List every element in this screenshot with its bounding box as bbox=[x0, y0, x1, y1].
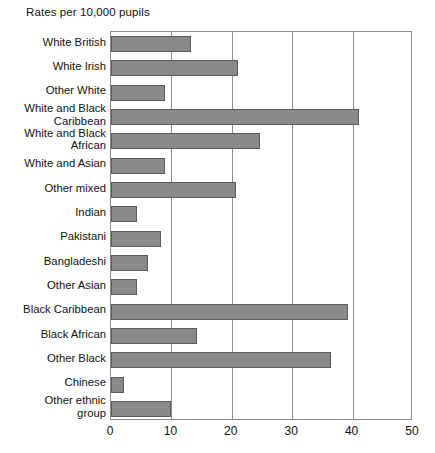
x-axis-tick-labels: 01020304050 bbox=[110, 424, 412, 444]
y-axis-label: Other Black bbox=[0, 352, 106, 365]
y-axis-label: Other ethnic group bbox=[0, 394, 106, 419]
bar-series bbox=[111, 32, 411, 419]
bar-row bbox=[111, 255, 411, 271]
bar bbox=[111, 231, 161, 247]
y-axis-label: Other mixed bbox=[0, 182, 106, 195]
bar-row bbox=[111, 304, 411, 320]
plot-area bbox=[110, 31, 412, 420]
bar bbox=[111, 36, 191, 52]
bar-row bbox=[111, 109, 411, 125]
y-axis-label: Indian bbox=[0, 206, 106, 219]
bar bbox=[111, 255, 148, 271]
y-axis-label: Black African bbox=[0, 328, 106, 341]
y-axis-category-labels: White BritishWhite IrishOther WhiteWhite… bbox=[0, 31, 106, 420]
bar-chart: Rates per 10,000 pupils White BritishWhi… bbox=[0, 0, 435, 453]
bar-row bbox=[111, 206, 411, 222]
bar bbox=[111, 182, 236, 198]
y-axis-label: Bangladeshi bbox=[0, 255, 106, 268]
bar-row bbox=[111, 133, 411, 149]
bar bbox=[111, 279, 137, 295]
bar bbox=[111, 60, 238, 76]
bar bbox=[111, 304, 348, 320]
bar-row bbox=[111, 279, 411, 295]
bar bbox=[111, 328, 197, 344]
bar bbox=[111, 206, 137, 222]
bar-row bbox=[111, 60, 411, 76]
x-axis-tick-label: 40 bbox=[345, 424, 358, 438]
y-axis-label: White British bbox=[0, 36, 106, 49]
x-axis-tick-label: 0 bbox=[107, 424, 114, 438]
bar bbox=[111, 158, 165, 174]
y-axis-label: Chinese bbox=[0, 376, 106, 389]
bar-row bbox=[111, 401, 411, 417]
bar bbox=[111, 401, 171, 417]
x-axis-tick-label: 50 bbox=[405, 424, 418, 438]
y-axis-label: Other Asian bbox=[0, 279, 106, 292]
x-axis-tick-label: 10 bbox=[164, 424, 177, 438]
y-axis-label: Other White bbox=[0, 84, 106, 97]
bar bbox=[111, 352, 331, 368]
y-axis-label: White and Asian bbox=[0, 157, 106, 170]
bar-row bbox=[111, 377, 411, 393]
bar bbox=[111, 133, 260, 149]
bar bbox=[111, 109, 359, 125]
bar bbox=[111, 85, 165, 101]
y-axis-label: White and Black African bbox=[0, 127, 106, 152]
y-axis-label: White Irish bbox=[0, 60, 106, 73]
bar-row bbox=[111, 158, 411, 174]
y-axis-label: White and Black Caribbean bbox=[0, 102, 106, 127]
y-axis-label: Pakistani bbox=[0, 230, 106, 243]
y-axis-label: Black Caribbean bbox=[0, 303, 106, 316]
x-axis-tick-label: 20 bbox=[224, 424, 237, 438]
bar bbox=[111, 377, 124, 393]
x-axis-tick-label: 30 bbox=[285, 424, 298, 438]
bar-row bbox=[111, 85, 411, 101]
bar-row bbox=[111, 36, 411, 52]
bar-row bbox=[111, 328, 411, 344]
bar-row bbox=[111, 352, 411, 368]
bar-row bbox=[111, 182, 411, 198]
bar-row bbox=[111, 231, 411, 247]
chart-title: Rates per 10,000 pupils bbox=[26, 6, 150, 18]
